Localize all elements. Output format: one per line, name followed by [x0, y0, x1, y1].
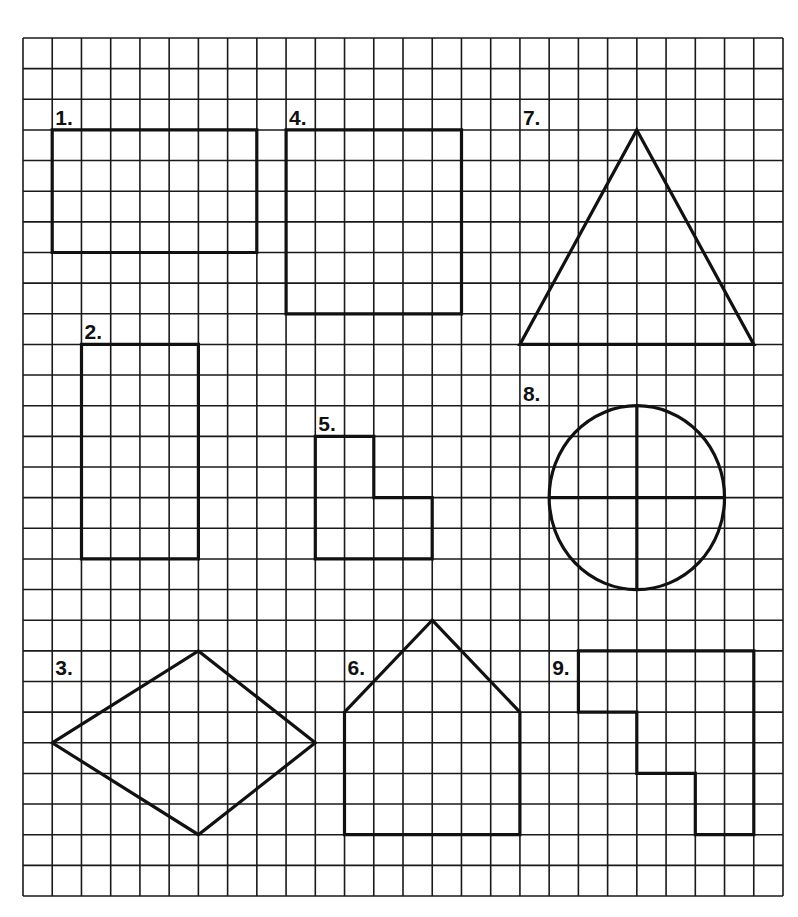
- shape-label-7: 7.: [523, 106, 541, 129]
- shape-label-2: 2.: [84, 320, 102, 343]
- shape-label-9: 9.: [552, 656, 570, 679]
- grid-lines: [23, 38, 783, 896]
- shape-label-8: 8.: [523, 382, 541, 405]
- shape-label-4: 4.: [289, 106, 307, 129]
- shape-label-3: 3.: [55, 656, 73, 679]
- grid-worksheet: 1. 2. 3. 4. 5. 6. 7. 8. 9.: [0, 0, 798, 917]
- shape-label-5: 5.: [318, 412, 336, 435]
- shape-label-1: 1.: [55, 106, 73, 129]
- shape-label-6: 6.: [348, 656, 366, 679]
